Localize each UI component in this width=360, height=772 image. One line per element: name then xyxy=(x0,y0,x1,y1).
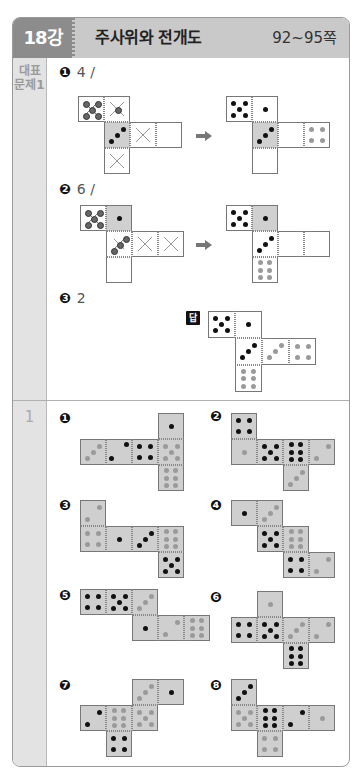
pip xyxy=(240,355,245,360)
net-face xyxy=(132,231,158,257)
pip xyxy=(112,708,117,713)
pip xyxy=(262,543,267,548)
answer-badge: 답 xyxy=(186,311,200,325)
net-face xyxy=(235,311,262,338)
pip xyxy=(85,542,90,547)
pip xyxy=(143,626,148,631)
pip xyxy=(241,376,246,381)
cross-out-icon xyxy=(104,148,130,174)
pip xyxy=(236,622,241,627)
net-face xyxy=(158,615,184,641)
pip xyxy=(231,113,236,118)
pip xyxy=(85,517,90,522)
pip xyxy=(243,113,248,118)
pip xyxy=(314,634,319,639)
net-face xyxy=(226,205,252,231)
net-face xyxy=(158,552,184,578)
net-face xyxy=(257,591,283,617)
pip xyxy=(300,470,305,475)
pip xyxy=(320,127,325,132)
pip xyxy=(163,569,168,574)
pip xyxy=(213,316,218,321)
net-face xyxy=(80,705,106,731)
net-face xyxy=(283,465,309,491)
net-face xyxy=(208,311,235,338)
problem-2-label: ❷ xyxy=(210,410,222,423)
pip xyxy=(164,544,169,549)
section-label-1: 1 xyxy=(13,410,46,424)
pip xyxy=(258,268,263,273)
pip xyxy=(163,632,168,637)
pip xyxy=(95,113,102,120)
pip xyxy=(219,322,224,327)
pip xyxy=(89,107,96,114)
pip xyxy=(123,606,128,611)
pip xyxy=(289,654,294,659)
pip xyxy=(164,537,169,542)
net-face xyxy=(132,526,158,552)
header-bar: 18강 주사위와 전개도 92~95쪽 xyxy=(13,18,349,58)
pip xyxy=(117,600,122,605)
net-face xyxy=(231,439,257,465)
net-face xyxy=(304,122,330,148)
net-face xyxy=(80,589,106,615)
section-label-column-1 xyxy=(13,401,47,766)
pip xyxy=(173,468,178,473)
pip xyxy=(289,544,294,549)
pip xyxy=(97,505,102,510)
cross-out-icon xyxy=(132,231,158,257)
pip xyxy=(272,723,277,728)
net-face xyxy=(257,617,283,643)
net-face xyxy=(309,439,335,465)
pip xyxy=(137,444,142,449)
page-range: 92~95쪽 xyxy=(272,18,337,58)
pip xyxy=(289,457,294,462)
net-face xyxy=(278,231,304,257)
pip xyxy=(117,537,122,542)
pip xyxy=(237,107,242,112)
net-face xyxy=(257,705,283,731)
net-face xyxy=(106,257,132,283)
pip xyxy=(300,710,305,715)
pip xyxy=(288,722,293,727)
pip xyxy=(163,557,168,562)
pip xyxy=(96,594,101,599)
pip xyxy=(97,710,102,715)
pip xyxy=(225,316,230,321)
net-face xyxy=(252,257,278,283)
pip xyxy=(137,543,142,548)
pip xyxy=(298,661,303,666)
net-face xyxy=(106,589,132,615)
net-face xyxy=(132,705,158,731)
pip xyxy=(314,569,319,574)
net-face xyxy=(104,148,130,174)
pip xyxy=(268,602,273,607)
number-badge: ❶ xyxy=(59,66,71,79)
lesson-number: 18강 xyxy=(13,18,73,58)
pip xyxy=(190,633,195,638)
pip xyxy=(242,450,247,455)
net-face xyxy=(283,526,309,552)
pip xyxy=(85,222,92,229)
problem-8-label: ❽ xyxy=(210,679,222,692)
pip xyxy=(117,242,124,249)
pip xyxy=(175,569,180,574)
number-badge: ❽ xyxy=(210,679,222,692)
net-face xyxy=(104,122,130,148)
pip xyxy=(320,716,325,721)
net-face xyxy=(257,439,283,465)
pip xyxy=(246,322,251,327)
pip xyxy=(122,736,127,741)
pip xyxy=(274,444,279,449)
arrow-right-icon xyxy=(196,240,212,250)
pip xyxy=(269,236,274,241)
pip xyxy=(85,456,90,461)
pip xyxy=(137,722,142,727)
pip xyxy=(295,344,300,349)
pip xyxy=(242,690,247,695)
pip xyxy=(299,557,304,562)
pip xyxy=(95,101,102,108)
number-badge: ❼ xyxy=(59,679,71,692)
pip xyxy=(248,722,253,727)
pip xyxy=(213,328,218,333)
